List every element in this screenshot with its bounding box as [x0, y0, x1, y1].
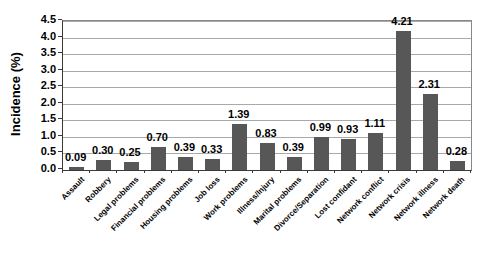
category-label: Marital problems	[252, 175, 304, 227]
y-tick-mark	[58, 102, 62, 103]
bar	[69, 167, 84, 170]
y-tick-mark	[58, 52, 62, 53]
bar	[341, 139, 356, 170]
x-tick-mark	[280, 170, 281, 173]
y-tick-label: 1.5	[24, 112, 56, 124]
bar-value-label: 4.21	[380, 15, 424, 27]
y-tick-label: 0.0	[24, 162, 56, 174]
x-tick-mark	[225, 170, 226, 173]
x-tick-mark	[334, 170, 335, 173]
y-tick-mark	[58, 85, 62, 86]
x-tick-mark	[388, 170, 389, 173]
bar	[314, 137, 329, 170]
y-tick-label: 3.5	[24, 46, 56, 58]
y-tick-label: 4.5	[24, 13, 56, 25]
x-tick-mark	[198, 170, 199, 173]
bar-value-label: 0.33	[190, 143, 234, 155]
x-tick-mark	[116, 170, 117, 173]
x-tick-mark	[252, 170, 253, 173]
x-tick-mark	[171, 170, 172, 173]
y-tick-mark	[58, 69, 62, 70]
bar-value-label: 2.31	[407, 78, 451, 90]
x-tick-mark	[361, 170, 362, 173]
x-tick-mark	[62, 170, 63, 173]
bar	[96, 160, 111, 170]
x-tick-mark	[89, 170, 90, 173]
bar-value-label: 0.83	[244, 127, 288, 139]
y-tick-mark	[58, 118, 62, 119]
y-tick-label: 2.0	[24, 96, 56, 108]
bar-value-label: 0.25	[108, 146, 152, 158]
bar-chart: Incidence (%) 0.00.51.01.52.02.53.03.54.…	[0, 0, 493, 264]
bar	[287, 157, 302, 170]
y-tick-label: 2.5	[24, 79, 56, 91]
y-tick-mark	[58, 135, 62, 136]
y-tick-label: 0.5	[24, 145, 56, 157]
y-tick-mark	[58, 19, 62, 20]
bar-value-label: 1.11	[353, 117, 397, 129]
y-axis-label: Incidence (%)	[8, 52, 23, 136]
bar	[124, 162, 139, 170]
y-tick-label: 4.0	[24, 30, 56, 42]
x-tick-mark	[307, 170, 308, 173]
bar	[450, 161, 465, 170]
bar	[205, 159, 220, 170]
x-tick-mark	[470, 170, 471, 173]
y-tick-label: 1.0	[24, 129, 56, 141]
bar	[423, 94, 438, 170]
bar-value-label: 0.39	[271, 141, 315, 153]
bar	[178, 157, 193, 170]
category-label: Network conflict	[335, 175, 385, 225]
bar	[368, 133, 383, 170]
bar-value-label: 0.28	[434, 145, 478, 157]
bar	[396, 31, 411, 170]
x-tick-mark	[144, 170, 145, 173]
y-tick-label: 3.0	[24, 63, 56, 75]
x-tick-mark	[443, 170, 444, 173]
category-label: Assault	[59, 175, 86, 202]
y-tick-mark	[58, 168, 62, 169]
y-tick-mark	[58, 36, 62, 37]
x-tick-mark	[416, 170, 417, 173]
category-label: Housing problems	[139, 175, 195, 231]
bar-value-label: 1.39	[217, 108, 261, 120]
